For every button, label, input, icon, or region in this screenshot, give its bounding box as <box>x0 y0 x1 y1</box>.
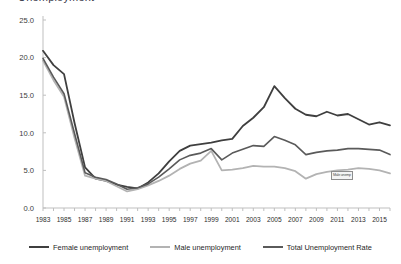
x-axis-tick-label: 1983 <box>36 216 51 223</box>
x-axis-tick-label: 2009 <box>309 216 324 223</box>
male-unemployment-data-label: Male unemp <box>331 171 353 180</box>
legend-swatch <box>263 246 283 248</box>
legend-item[interactable]: Total Unemployment Rate <box>263 243 372 252</box>
y-axis-group: 0.05.010.015.020.025.0 <box>19 16 46 213</box>
plot-area: 0.05.010.015.020.025.0 19831985198719891… <box>0 0 401 264</box>
x-axis-tick-label: 2007 <box>288 216 303 223</box>
y-axis-tick-label: 20.0 <box>19 53 34 62</box>
x-axis-tick-label: 2001 <box>225 216 240 223</box>
legend-item[interactable]: Male unemployment <box>150 243 241 252</box>
series-line <box>43 51 390 189</box>
y-axis-tick-label: 25.0 <box>19 16 34 25</box>
legend-label: Male unemployment <box>174 243 241 252</box>
y-axis-tick-label: 5.0 <box>23 166 34 175</box>
legend-label: Total Unemployment Rate <box>287 243 372 252</box>
x-axis-tick-label: 2015 <box>372 216 387 223</box>
x-axis-tick-label: 1985 <box>57 216 72 223</box>
legend-swatch <box>150 246 170 248</box>
x-axis-tick-label: 1991 <box>120 216 135 223</box>
x-axis-tick-label: 1995 <box>162 216 177 223</box>
y-axis-tick-label: 10.0 <box>19 129 34 138</box>
chart-legend: Female unemploymentMale unemploymentTota… <box>0 238 401 256</box>
x-axis-group: 1983198519871989199119931995199719992001… <box>36 208 390 223</box>
y-axis-tick-label: 0.0 <box>23 204 34 213</box>
legend-item[interactable]: Female unemployment <box>29 243 128 252</box>
unemployment-line-chart: Unemployment 0.05.010.015.020.025.0 1983… <box>0 0 401 264</box>
legend-label: Female unemployment <box>53 243 128 252</box>
x-axis-tick-label: 2005 <box>267 216 282 223</box>
x-axis-tick-label: 2013 <box>351 216 366 223</box>
x-axis-tick-label: 1993 <box>141 216 156 223</box>
y-axis-tick-label: 15.0 <box>19 91 34 100</box>
legend-swatch <box>29 246 49 248</box>
x-axis-tick-label: 1999 <box>204 216 219 223</box>
x-axis-tick-label: 2011 <box>330 216 345 223</box>
x-axis-tick-label: 2003 <box>246 216 261 223</box>
x-axis-tick-label: 1987 <box>78 216 93 223</box>
x-axis-tick-label: 1997 <box>183 216 198 223</box>
x-axis-tick-label: 1989 <box>99 216 114 223</box>
